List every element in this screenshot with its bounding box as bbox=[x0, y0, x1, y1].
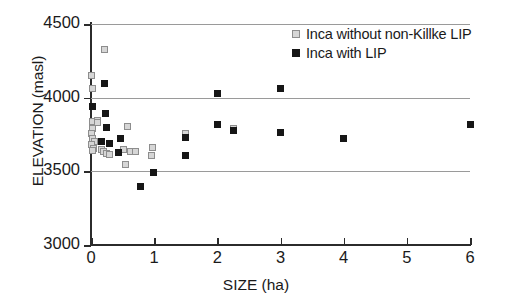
filled-square-icon bbox=[292, 49, 300, 57]
data-point bbox=[117, 135, 124, 142]
data-point bbox=[150, 169, 157, 176]
data-point bbox=[122, 161, 129, 168]
data-point bbox=[101, 46, 108, 53]
data-point bbox=[103, 124, 110, 131]
data-point bbox=[137, 183, 144, 190]
data-point bbox=[132, 148, 139, 155]
data-point bbox=[214, 121, 221, 128]
scatter-chart-figure: ELEVATION (masl) SIZE (ha) 3000350040004… bbox=[0, 0, 512, 306]
data-point bbox=[467, 121, 474, 128]
data-point bbox=[106, 151, 113, 158]
legend: Inca without non-Killke LIP Inca with LI… bbox=[292, 24, 504, 62]
legend-item-1: Inca with LIP bbox=[292, 43, 504, 62]
data-point bbox=[101, 80, 108, 87]
legend-label-0: Inca without non-Killke LIP bbox=[306, 26, 471, 42]
legend-item-0: Inca without non-Killke LIP bbox=[292, 24, 504, 43]
data-point bbox=[148, 152, 155, 159]
data-point bbox=[182, 134, 189, 141]
data-point bbox=[115, 149, 122, 156]
data-point bbox=[102, 110, 109, 117]
data-point bbox=[88, 72, 95, 79]
data-point bbox=[230, 127, 237, 134]
data-point bbox=[277, 85, 284, 92]
data-point bbox=[89, 103, 96, 110]
data-point bbox=[149, 144, 156, 151]
data-point bbox=[89, 85, 96, 92]
data-point bbox=[277, 129, 284, 136]
data-point bbox=[182, 152, 189, 159]
data-point bbox=[106, 140, 113, 147]
legend-label-1: Inca with LIP bbox=[306, 45, 386, 61]
data-point bbox=[89, 147, 96, 154]
data-point bbox=[214, 90, 221, 97]
data-point bbox=[98, 138, 105, 145]
open-square-icon bbox=[292, 30, 300, 38]
data-point bbox=[340, 135, 347, 142]
data-point bbox=[124, 123, 131, 130]
